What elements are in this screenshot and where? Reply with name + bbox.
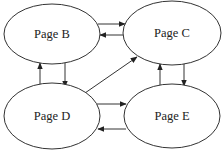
node-page-e: Page E	[124, 84, 220, 148]
node-label: Page D	[34, 109, 70, 123]
node-label: Page B	[34, 27, 70, 41]
node-page-b: Page B	[4, 4, 100, 64]
node-page-c: Page C	[123, 1, 221, 65]
node-label: Page E	[154, 109, 189, 123]
node-page-d: Page D	[4, 83, 100, 149]
node-label: Page C	[154, 26, 190, 40]
edge-d-to-c	[85, 57, 137, 93]
page-link-diagram: Page B Page C Page D Page E	[0, 0, 223, 153]
